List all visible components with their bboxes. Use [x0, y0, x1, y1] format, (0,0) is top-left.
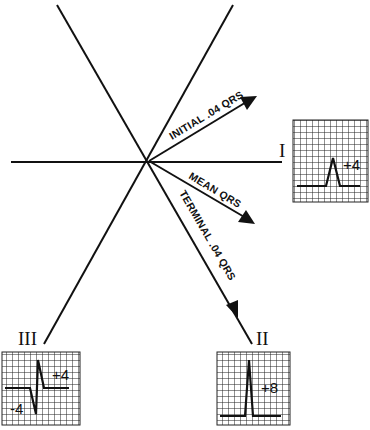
- lead-III-axis: [44, 5, 233, 344]
- lead-II-label: II: [256, 328, 269, 349]
- initial-qrs-label: INITIAL .04 QRS: [167, 88, 245, 142]
- lead-I-value: +4: [343, 156, 360, 173]
- arrowhead-icon: [238, 210, 255, 224]
- lead-II-axis: [57, 5, 252, 344]
- initial-qrs-vector: INITIAL .04 QRS: [149, 88, 257, 161]
- ecg-strip-lead-III: +4 -4: [2, 352, 80, 425]
- lead-III-negative-value: -4: [10, 400, 23, 417]
- lead-III-positive-value: +4: [52, 366, 69, 383]
- ecg-strip-lead-II: +8: [217, 352, 290, 425]
- lead-I-label: I: [279, 140, 285, 161]
- lead-II-value: +8: [261, 379, 278, 396]
- lead-III-label: III: [18, 328, 37, 349]
- ecg-strip-lead-I: +4: [293, 120, 368, 202]
- qrs-axis-diagram: INITIAL .04 QRS MEAN QRS TERMINAL .04 QR…: [0, 0, 370, 430]
